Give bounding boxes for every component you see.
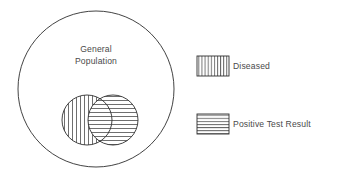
legend-label-positive-test-result: Positive Test Result [233,119,311,129]
legend-swatch-diseased [197,56,229,76]
general-population-label-line1: General [80,44,112,54]
general-population-label-line2: Population [75,56,117,66]
legend-label-diseased: Diseased [233,61,270,71]
diagram-canvas: General Population Diseased [0,0,342,180]
venn-diagram-figure: General Population Diseased [0,0,342,180]
legend-swatch-positive-test-result [197,114,229,134]
